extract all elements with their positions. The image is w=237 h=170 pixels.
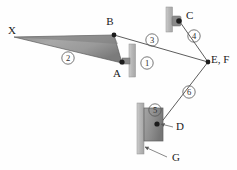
link-2-text: 2 [66, 53, 70, 63]
support-d-assembly [137, 103, 163, 154]
point-label-c: C [186, 9, 193, 21]
leader-g [145, 147, 167, 157]
support-a [119, 44, 135, 77]
link-5-text: 5 [153, 105, 157, 115]
point-label-x: X [8, 24, 16, 36]
point-label-d: D [176, 120, 184, 132]
link-number-2: 2 [62, 52, 74, 64]
link-6-text: 6 [187, 87, 191, 97]
wall-bar-c [166, 7, 173, 32]
point-label-g: G [172, 151, 180, 163]
link-number-3: 3 [146, 34, 158, 46]
pivot-c [176, 18, 182, 24]
wall-bar-g [137, 103, 144, 154]
pivot-ef [206, 60, 211, 65]
support-c [166, 7, 182, 32]
link-6-line [160, 62, 208, 124]
link-number-1: 1 [141, 57, 153, 69]
pivot-b [112, 33, 117, 38]
pivot-d [154, 121, 159, 126]
link-4-text: 4 [192, 31, 197, 41]
link-1-text: 1 [145, 58, 149, 68]
pivot-a [119, 59, 124, 64]
link-3-text: 3 [150, 35, 154, 45]
diagram-canvas: 1 2 3 4 5 6 X B A C E, F D G [0, 0, 237, 170]
linkage-diagram: 1 2 3 4 5 6 X B A C E, F D G [0, 0, 237, 170]
point-label-b: B [106, 15, 113, 27]
point-label-ef: E, F [211, 53, 229, 65]
point-label-a: A [113, 67, 121, 79]
